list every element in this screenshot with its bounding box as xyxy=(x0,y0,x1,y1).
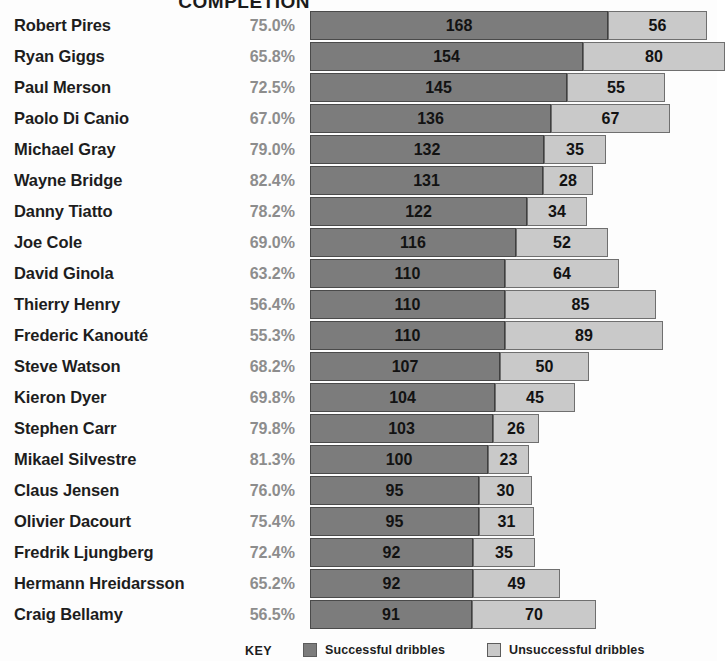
bar-segment-successful: 154 xyxy=(310,42,583,71)
player-name: Wayne Bridge xyxy=(14,165,122,196)
bar-segment-successful: 95 xyxy=(310,507,479,536)
completion-percentage: 69.0% xyxy=(185,227,295,258)
bar-value-successful: 122 xyxy=(311,198,526,225)
bar-segment-successful: 92 xyxy=(310,569,473,598)
bar-value-unsuccessful: 26 xyxy=(494,415,538,442)
bar-segment-unsuccessful: 67 xyxy=(551,104,670,133)
bar-value-successful: 110 xyxy=(311,322,504,349)
bar-value-successful: 95 xyxy=(311,508,478,535)
player-name: Hermann Hreidarsson xyxy=(14,568,185,599)
completion-percentage: 65.2% xyxy=(185,568,295,599)
bar-value-unsuccessful: 80 xyxy=(584,43,724,70)
chart-row: Danny Tiatto78.2%12234 xyxy=(0,196,717,227)
bar-segment-unsuccessful: 26 xyxy=(493,414,539,443)
bar-value-unsuccessful: 49 xyxy=(474,570,559,597)
bar-value-successful: 104 xyxy=(311,384,494,411)
completion-percentage: 72.4% xyxy=(185,537,295,568)
player-name: Thierry Henry xyxy=(14,289,120,320)
bar-segment-successful: 116 xyxy=(310,228,516,257)
bar-value-unsuccessful: 70 xyxy=(473,601,595,628)
stacked-bar: 10445 xyxy=(310,383,575,412)
player-name: Fredrik Ljungberg xyxy=(14,537,153,568)
stacked-bar: 10326 xyxy=(310,414,539,443)
bar-segment-unsuccessful: 35 xyxy=(544,135,606,164)
chart-row: Paul Merson72.5%14555 xyxy=(0,72,717,103)
bar-value-successful: 92 xyxy=(311,539,472,566)
legend-label-unsuccessful: Unsuccessful dribbles xyxy=(509,643,644,657)
bar-value-successful: 145 xyxy=(311,74,566,101)
chart-row: Joe Cole69.0%11652 xyxy=(0,227,717,258)
stacked-bar: 11089 xyxy=(310,321,663,350)
bar-value-unsuccessful: 67 xyxy=(552,105,669,132)
bar-value-unsuccessful: 50 xyxy=(501,353,588,380)
bar-segment-successful: 92 xyxy=(310,538,473,567)
bar-segment-successful: 110 xyxy=(310,290,505,319)
bar-segment-unsuccessful: 89 xyxy=(505,321,663,350)
bar-segment-unsuccessful: 28 xyxy=(543,166,593,195)
stacked-bar: 9530 xyxy=(310,476,532,505)
player-name: Frederic Kanouté xyxy=(14,320,148,351)
player-name: Paolo Di Canio xyxy=(14,103,129,134)
legend-swatch-successful-icon xyxy=(303,643,317,657)
bar-value-successful: 91 xyxy=(311,601,471,628)
bar-value-unsuccessful: 56 xyxy=(609,12,706,39)
player-name: Steve Watson xyxy=(14,351,120,382)
bar-segment-successful: 122 xyxy=(310,197,527,226)
bar-value-unsuccessful: 31 xyxy=(480,508,533,535)
player-name: Stephen Carr xyxy=(14,413,116,444)
bar-segment-successful: 131 xyxy=(310,166,543,195)
bar-segment-unsuccessful: 55 xyxy=(567,73,665,102)
legend-swatch-unsuccessful-icon xyxy=(487,643,501,657)
completion-percentage: 56.4% xyxy=(185,289,295,320)
player-name: Kieron Dyer xyxy=(14,382,106,413)
bar-value-unsuccessful: 55 xyxy=(568,74,664,101)
player-name: David Ginola xyxy=(14,258,114,289)
bar-value-unsuccessful: 52 xyxy=(517,229,607,256)
stacked-bar: 15480 xyxy=(310,42,725,71)
bar-segment-successful: 107 xyxy=(310,352,500,381)
completion-percentage: 67.0% xyxy=(185,103,295,134)
bar-segment-successful: 132 xyxy=(310,135,544,164)
bar-segment-successful: 100 xyxy=(310,445,488,474)
bar-segment-unsuccessful: 34 xyxy=(527,197,587,226)
bar-segment-successful: 110 xyxy=(310,321,505,350)
chart-row: Fredrik Ljungberg72.4%9235 xyxy=(0,537,717,568)
player-name: Claus Jensen xyxy=(14,475,119,506)
chart-row: Wayne Bridge82.4%13128 xyxy=(0,165,717,196)
stacked-bar: 11085 xyxy=(310,290,656,319)
bar-value-unsuccessful: 35 xyxy=(474,539,534,566)
chart-row: Craig Bellamy56.5%9170 xyxy=(0,599,717,630)
stacked-bar: 9531 xyxy=(310,507,534,536)
bar-segment-unsuccessful: 56 xyxy=(608,11,707,40)
bar-value-unsuccessful: 28 xyxy=(544,167,592,194)
bar-segment-unsuccessful: 50 xyxy=(500,352,589,381)
bar-value-successful: 110 xyxy=(311,260,504,287)
stacked-bar: 12234 xyxy=(310,197,587,226)
bar-segment-successful: 91 xyxy=(310,600,472,629)
completion-percentage: 63.2% xyxy=(185,258,295,289)
bar-value-unsuccessful: 89 xyxy=(506,322,662,349)
chart-row: Claus Jensen76.0%9530 xyxy=(0,475,717,506)
completion-percentage: 55.3% xyxy=(185,320,295,351)
bar-segment-unsuccessful: 31 xyxy=(479,507,534,536)
bar-value-successful: 116 xyxy=(311,229,515,256)
bar-value-successful: 154 xyxy=(311,43,582,70)
bar-segment-unsuccessful: 70 xyxy=(472,600,596,629)
chart-row: Steve Watson68.2%10750 xyxy=(0,351,717,382)
bar-value-unsuccessful: 30 xyxy=(480,477,531,504)
stacked-bar: 11064 xyxy=(310,259,619,288)
bar-value-unsuccessful: 35 xyxy=(545,136,605,163)
bar-value-unsuccessful: 23 xyxy=(489,446,528,473)
stacked-bar: 10750 xyxy=(310,352,589,381)
completion-percentage: 82.4% xyxy=(185,165,295,196)
bar-value-successful: 132 xyxy=(311,136,543,163)
bar-segment-successful: 103 xyxy=(310,414,493,443)
player-name: Craig Bellamy xyxy=(14,599,123,630)
bar-value-unsuccessful: 64 xyxy=(506,260,618,287)
bar-value-successful: 107 xyxy=(311,353,499,380)
chart-row: Paolo Di Canio67.0%13667 xyxy=(0,103,717,134)
completion-percentage: 56.5% xyxy=(185,599,295,630)
chart-row: Stephen Carr79.8%10326 xyxy=(0,413,717,444)
bar-value-successful: 100 xyxy=(311,446,487,473)
bar-segment-unsuccessful: 30 xyxy=(479,476,532,505)
